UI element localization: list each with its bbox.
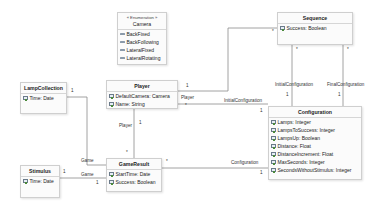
field-icon — [271, 136, 276, 140]
role-player-gameresult-player: Player — [119, 124, 132, 129]
mult-player-gameresult-player: 1 — [139, 121, 142, 126]
sequence-title: Sequence — [278, 13, 352, 24]
mult-lamp-gameresult-lamp: 1 — [71, 89, 74, 94]
configuration-attribute: SecondsWithoutStimulus: Integer — [269, 166, 361, 174]
class-configuration[interactable]: Configuration Lamps: Integer LampsToSucc… — [268, 106, 362, 180]
configuration-attribute: MaxSeconds: Integer — [269, 158, 361, 166]
field-icon — [271, 128, 276, 132]
stimulus-title: Stimulus — [21, 166, 59, 177]
gameresult-attribute: Success: Boolean — [107, 178, 161, 186]
mult-seq-final-config: 1 — [338, 93, 341, 98]
camera-stereotype: « Enumeration » — [118, 13, 166, 20]
player-title: Player — [107, 81, 177, 92]
mult-player-config-player: * — [185, 104, 187, 109]
class-stimulus[interactable]: Stimulus Time: Date — [20, 165, 60, 198]
line-player-sequence — [178, 28, 277, 91]
mult-player-sequence-sequence: * — [272, 30, 274, 35]
configuration-title: Configuration — [269, 107, 361, 118]
sequence-attribute: Success: Boolean — [278, 24, 352, 32]
field-icon — [271, 120, 276, 124]
mult-player-config-config: 1 — [260, 109, 263, 114]
camera-literal: LateralFixed — [118, 46, 166, 54]
lampcollection-attribute: Time: Date — [21, 94, 66, 102]
field-icon — [280, 26, 285, 30]
configuration-attribute: DistanceIncrement: Float — [269, 150, 361, 158]
field-icon — [271, 144, 276, 148]
mult-seq-final-sequence: * — [347, 48, 349, 53]
camera-literal: LateralRotating — [118, 54, 166, 62]
player-attribute: Name: String — [107, 100, 177, 108]
field-icon — [109, 102, 114, 106]
gameresult-attribute: StartTime: Date — [107, 170, 161, 178]
role-player-config-config: InitialConfiguration — [224, 99, 262, 104]
field-icon — [23, 179, 28, 183]
enum-literal-icon — [120, 57, 125, 59]
role-lamp-gameresult-game: Game — [81, 159, 94, 164]
mult-seq-initial-sequence: * — [296, 48, 298, 53]
mult-player-gameresult-gameresult: * — [126, 151, 128, 156]
configuration-attribute: Lamps: Integer — [269, 118, 361, 126]
uml-diagram-canvas: « Enumeration » Camera BackFixed BackFol… — [0, 0, 388, 207]
mult-gameresult-config-config: 1 — [260, 171, 263, 176]
field-icon — [23, 96, 28, 100]
field-icon — [109, 94, 114, 98]
camera-literal: BackFollowing — [118, 38, 166, 46]
field-icon — [109, 172, 114, 176]
class-sequence[interactable]: Sequence Success: Boolean — [277, 12, 353, 45]
mult-seq-initial-config: 1 — [286, 93, 289, 98]
enum-literal-icon — [120, 41, 125, 43]
role-seq-initial: InitialConfiguration — [275, 83, 313, 88]
player-attribute: DefaultCamera: Camera — [107, 92, 177, 100]
configuration-attribute: LampsUp: Boolean — [269, 134, 361, 142]
role-stimulus-gameresult-game: Game — [81, 173, 94, 178]
class-player[interactable]: Player DefaultCamera: Camera Name: Strin… — [106, 80, 178, 109]
lampcollection-title: LampCollection — [21, 83, 66, 94]
gameresult-title: GameResult — [107, 159, 161, 170]
enum-literal-icon — [120, 33, 125, 35]
role-gameresult-config-config: Configuration — [231, 161, 258, 166]
field-icon — [271, 168, 276, 172]
field-icon — [271, 152, 276, 156]
class-lampcollection[interactable]: LampCollection Time: Date — [20, 82, 67, 114]
mult-player-sequence-player: 1 — [186, 84, 189, 89]
role-player-config-player: Player — [181, 96, 194, 101]
stimulus-attribute: Time: Date — [21, 177, 59, 185]
class-gameresult[interactable]: GameResult StartTime: Date Success: Bool… — [106, 158, 162, 192]
enum-literal-icon — [120, 49, 125, 51]
field-icon — [109, 180, 114, 184]
mult-stimulus-gameresult-stimulus: 1 — [63, 170, 66, 175]
configuration-attribute: Distance: Float — [269, 142, 361, 150]
mult-gameresult-config-gameresult: * — [166, 160, 168, 165]
configuration-attribute: LampsToSuccess: Integer — [269, 126, 361, 134]
field-icon — [271, 160, 276, 164]
line-lampcollection-gameresult — [67, 97, 106, 165]
camera-title: Camera — [118, 20, 166, 30]
role-seq-final: FinalConfiguration — [327, 83, 364, 88]
camera-literal: BackFixed — [118, 30, 166, 38]
class-camera-enumeration[interactable]: « Enumeration » Camera BackFixed BackFol… — [117, 12, 167, 65]
mult-stimulus-gameresult-game: 1 — [96, 181, 99, 186]
